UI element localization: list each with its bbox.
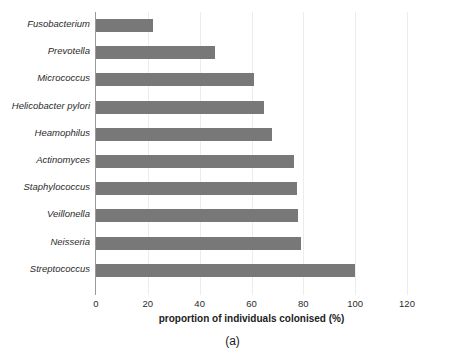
bar-chart-figure: FusobacteriumPrevotellaMicrococcusHelico… [0, 0, 465, 355]
category-label: Veillonella [47, 207, 90, 220]
x-tick-label: 120 [399, 298, 415, 309]
bar [96, 128, 272, 141]
category-label: Actinomyces [36, 153, 90, 166]
bar-row: Fusobacterium [96, 12, 407, 39]
plot-area: FusobacteriumPrevotellaMicrococcusHelico… [96, 12, 407, 295]
bar-row: Streptococcus [96, 257, 407, 284]
bar-row: Prevotella [96, 39, 407, 66]
bar [96, 46, 215, 59]
category-label: Micrococcus [37, 71, 90, 84]
bar-row: Heamophilus [96, 121, 407, 148]
bar-row: Helicobacter pylori [96, 94, 407, 121]
category-label: Staphylococcus [23, 180, 90, 193]
x-tick-label: 40 [194, 298, 205, 309]
bar-row: Micrococcus [96, 66, 407, 93]
category-label: Heamophilus [35, 126, 90, 139]
category-label: Prevotella [48, 44, 90, 57]
bar [96, 155, 294, 168]
x-tick-label: 20 [143, 298, 154, 309]
x-tick-label: 0 [93, 298, 98, 309]
gridline [407, 12, 408, 295]
bar-row: Staphylococcus [96, 175, 407, 202]
bar-row: Actinomyces [96, 148, 407, 175]
x-axis-tick-labels: 020406080100120 [0, 298, 465, 314]
x-tick-label: 60 [246, 298, 257, 309]
x-tick-label: 100 [347, 298, 363, 309]
figure-caption: (a) [0, 334, 465, 348]
bar-row: Veillonella [96, 202, 407, 229]
category-label: Neisseria [50, 235, 90, 248]
bar [96, 182, 297, 195]
bar [96, 264, 355, 277]
bar-row: Neisseria [96, 230, 407, 257]
bar [96, 101, 264, 114]
x-tick-label: 80 [298, 298, 309, 309]
category-label: Helicobacter pylori [12, 99, 90, 112]
bar [96, 209, 298, 222]
bar [96, 237, 301, 250]
x-axis-title: proportion of individuals colonised (%) [96, 313, 407, 324]
category-label: Fusobacterium [27, 17, 90, 30]
category-label: Streptococcus [30, 262, 90, 275]
bar [96, 19, 153, 32]
bar [96, 73, 254, 86]
